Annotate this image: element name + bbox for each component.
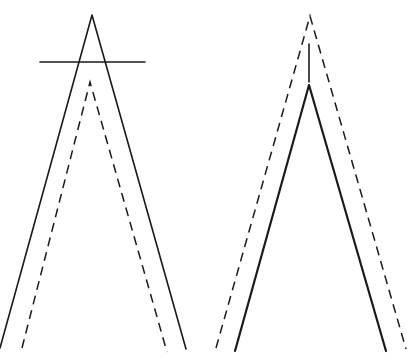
right-solid-wedge <box>235 85 386 351</box>
left-dashed-wedge <box>22 82 167 352</box>
right-dashed-wedge <box>216 16 406 349</box>
wedge-diagram <box>0 0 407 363</box>
right-figure <box>216 16 406 351</box>
diagram-canvas <box>0 0 407 363</box>
left-solid-wedge <box>0 15 186 349</box>
left-figure <box>0 15 186 352</box>
